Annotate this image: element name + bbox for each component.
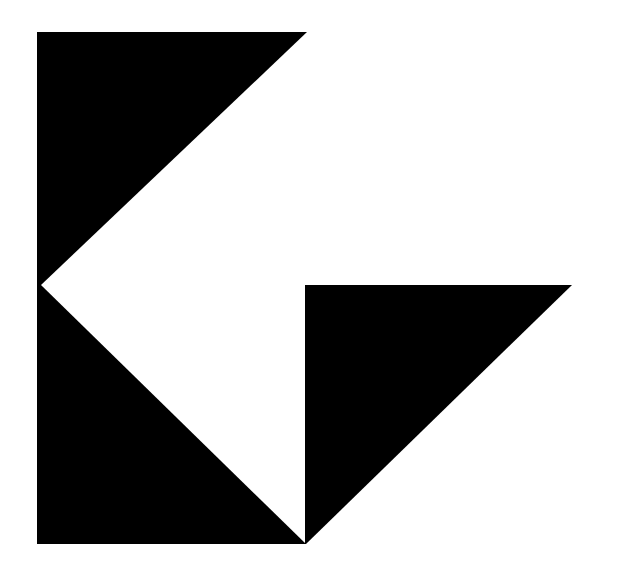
logo-left-lower-shape [37, 285, 306, 544]
logo-mark [0, 0, 619, 583]
logo-right-triangle-shape [305, 285, 572, 544]
logo-left-upper-shape [37, 32, 307, 285]
